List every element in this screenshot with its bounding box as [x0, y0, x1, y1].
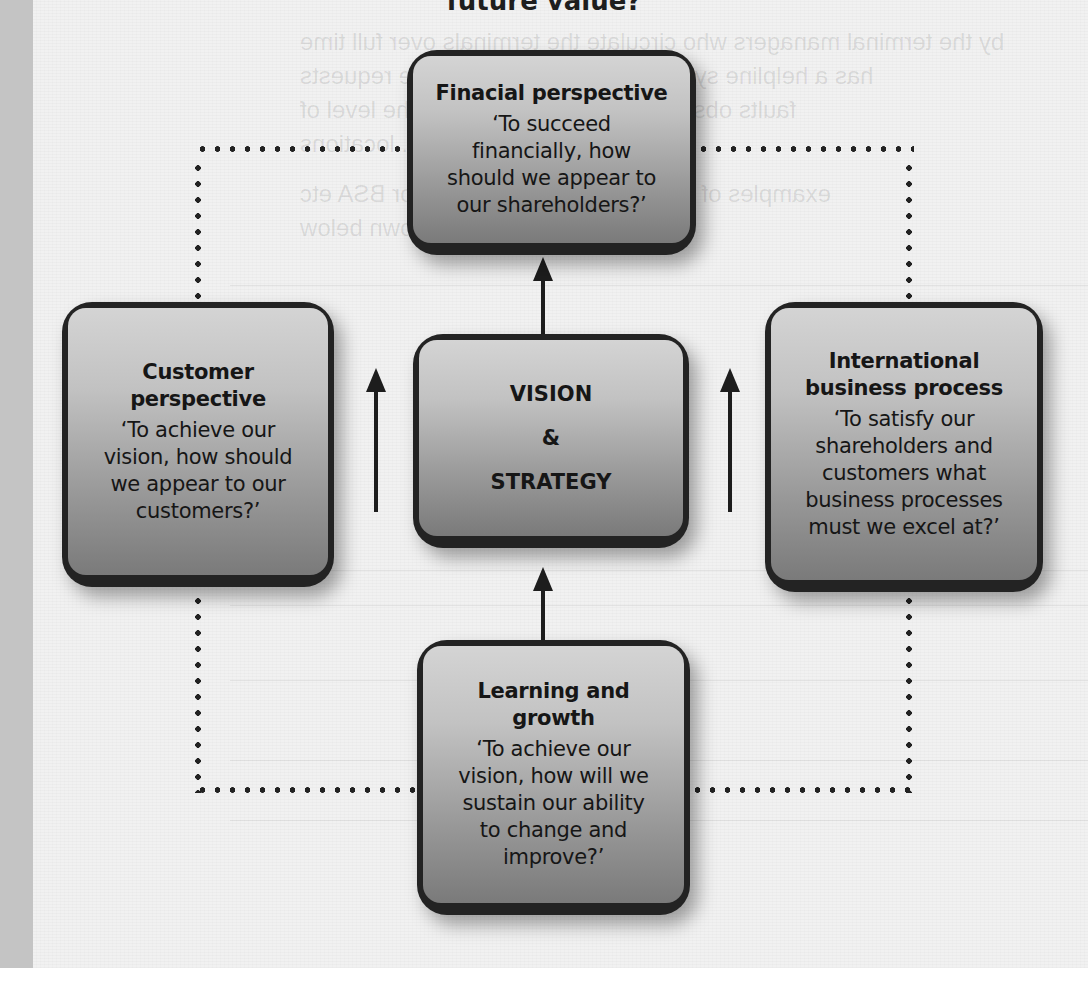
- ghost-rule: [230, 285, 1088, 286]
- dotted-connector-left-lower: [195, 593, 201, 793]
- dotted-connector-top-left: [195, 146, 407, 152]
- ghost-rule: [230, 605, 1088, 606]
- box-financial-perspective: Finacial perspective ‘To succeed financi…: [407, 50, 696, 255]
- box-title: International business process: [805, 348, 1003, 402]
- dotted-connector-bottom-left: [195, 787, 417, 793]
- arrow-head-up-icon: [533, 257, 553, 281]
- box-quote: ‘To satisfy our shareholders and custome…: [805, 406, 1002, 541]
- box-vision-strategy: VISION & STRATEGY: [413, 334, 689, 548]
- arrow-right-side-up: [728, 390, 732, 512]
- box-quote: ‘To achieve our vision, how will we sust…: [458, 736, 648, 871]
- arrow-left-side-up: [374, 390, 378, 512]
- dotted-connector-top-right: [696, 146, 914, 152]
- box-business-process: International business process ‘To satis…: [765, 302, 1043, 592]
- box-title: Learning and growth: [477, 678, 629, 732]
- center-line-strategy: STRATEGY: [491, 460, 612, 504]
- header-fragment: future value?: [0, 0, 1088, 16]
- box-title: Customer perspective: [130, 359, 266, 413]
- arrow-head-up-icon: [533, 567, 553, 591]
- box-quote: ‘To succeed financially, how should we a…: [447, 111, 656, 219]
- box-customer-perspective: Customer perspective ‘To achieve our vis…: [62, 302, 334, 587]
- arrow-bottom-to-center: [541, 588, 545, 644]
- page-gutter: [0, 0, 33, 968]
- box-title: Finacial perspective: [435, 80, 667, 107]
- center-line-ampersand: &: [542, 416, 560, 460]
- dotted-connector-bottom-right: [690, 787, 914, 793]
- arrow-head-up-icon: [366, 368, 386, 392]
- box-quote: ‘To achieve our vision, how should we ap…: [104, 417, 293, 525]
- diagram-canvas: by the terminal managers who circulate t…: [0, 0, 1088, 989]
- arrow-head-up-icon: [720, 368, 740, 392]
- center-line-vision: VISION: [510, 372, 592, 416]
- dotted-connector-right-upper: [906, 160, 912, 300]
- box-learning-growth: Learning and growth ‘To achieve our visi…: [417, 640, 690, 915]
- dotted-connector-left-upper: [195, 160, 201, 300]
- dotted-connector-right-lower: [906, 593, 912, 793]
- arrow-center-to-top: [541, 280, 545, 340]
